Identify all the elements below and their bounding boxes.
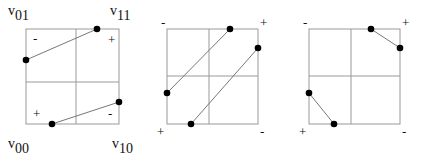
- corner-sign-bottom-right: -: [402, 124, 406, 139]
- corner-sign-top-left: -: [161, 15, 165, 30]
- intersection-point: [188, 121, 195, 128]
- intersection-point: [23, 57, 30, 64]
- corner-sign-bottom-right: -: [260, 124, 264, 139]
- intersection-point: [49, 121, 56, 128]
- panel-3: -++-: [299, 15, 409, 139]
- contour-segment: [371, 29, 400, 48]
- intersection-point: [397, 45, 404, 52]
- corner-sign-top-right: +: [108, 32, 115, 47]
- corner-sign-top-left: -: [303, 15, 307, 30]
- intersection-point: [368, 26, 375, 33]
- vertex-label-top-left: v01: [8, 3, 29, 23]
- vertex-label-top-right: v11: [110, 3, 130, 23]
- corner-sign-bottom-left: +: [33, 106, 40, 121]
- intersection-point: [94, 26, 101, 33]
- panel-1: -++-v01v11v00v10: [8, 3, 133, 156]
- intersection-point: [164, 90, 171, 97]
- contour-segment: [191, 48, 258, 124]
- vertex-label-bottom-left: v00: [8, 136, 29, 156]
- contour-segment: [309, 93, 334, 124]
- corner-sign-top-right: +: [402, 15, 409, 30]
- corner-sign-bottom-left: +: [299, 124, 306, 139]
- corner-sign-bottom-left: +: [157, 124, 164, 139]
- marching-squares-diagram: -++-v01v11v00v10-++--++-: [0, 0, 421, 163]
- panel-2: -++-: [157, 15, 267, 139]
- intersection-point: [227, 26, 234, 33]
- contour-segment: [167, 29, 230, 93]
- intersection-point: [331, 121, 338, 128]
- intersection-point: [255, 45, 262, 52]
- vertex-label-bottom-right: v10: [112, 136, 133, 156]
- corner-sign-bottom-right: -: [108, 106, 112, 121]
- corner-sign-top-left: -: [33, 31, 37, 46]
- intersection-point: [116, 99, 123, 106]
- intersection-point: [306, 90, 313, 97]
- corner-sign-top-right: +: [260, 15, 267, 30]
